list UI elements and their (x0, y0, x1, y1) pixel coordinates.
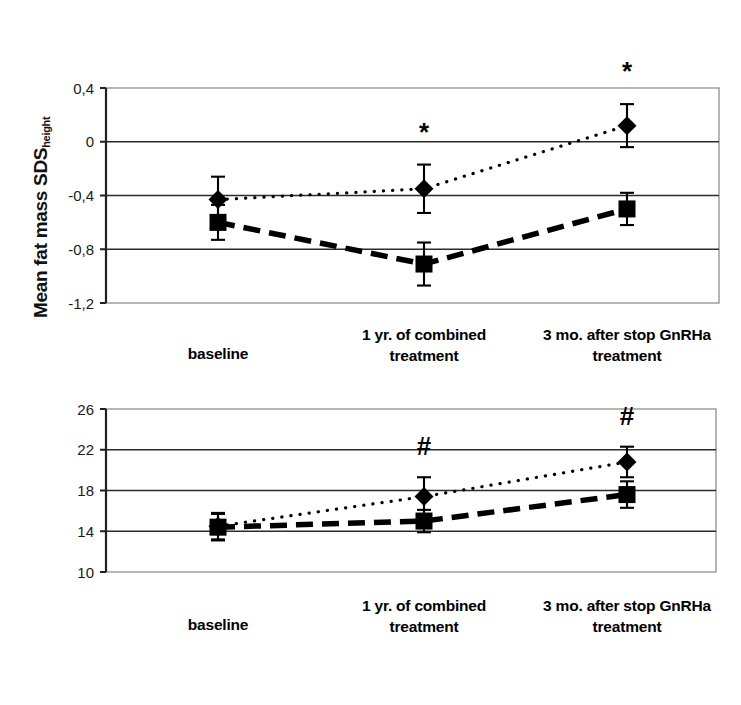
y-tick-label-1: 22 (77, 441, 94, 458)
x-axis-label-line: 1 yr. of combined (362, 326, 486, 343)
datapoint-dashed-square-2 (619, 481, 636, 507)
x-axis-label-line: treatment (593, 618, 662, 635)
y-tick-label-2: -0,4 (68, 187, 94, 204)
x-axis-label-line: baseline (188, 616, 249, 633)
x-axis-label-0: baseline (188, 345, 249, 362)
y-tick-label-0: 0,4 (73, 80, 94, 97)
y-tick-label-4: 10 (77, 564, 94, 581)
x-axis-label-line: 3 mo. after stop GnRHa (543, 597, 711, 614)
x-axis-label-1: 1 yr. of combinedtreatment (362, 326, 486, 364)
marker-diamond (618, 116, 637, 135)
x-axis-label-line: baseline (188, 345, 249, 362)
datapoint-dotted-diamond-2 (618, 447, 637, 478)
datapoint-dashed-square-0 (210, 205, 227, 240)
plot-area-fat-mass-sds: 0,40-0,4-0,8-1,2**baseline1 yr. of combi… (0, 0, 741, 390)
y-tick-label-3: -0,8 (68, 241, 94, 258)
datapoint-dashed-square-2 (619, 193, 636, 225)
significance-marker-1: * (622, 56, 633, 86)
y-tick-label-3: 14 (77, 523, 94, 540)
x-axis-label-1: 1 yr. of combinedtreatment (362, 597, 486, 635)
y-tick-label-2: 18 (77, 482, 94, 499)
x-axis-label-line: 3 mo. after stop GnRHa (543, 326, 711, 343)
marker-square (210, 214, 227, 231)
x-axis-label-2: 3 mo. after stop GnRHatreatment (543, 597, 711, 635)
marker-square (210, 519, 227, 536)
marker-square (619, 200, 636, 217)
datapoint-dashed-square-0 (210, 514, 227, 540)
marker-square (619, 486, 636, 503)
chart-panel-trunk-fat: Mean % trunk fat 2622181410##baseline1 y… (0, 385, 741, 705)
marker-diamond (618, 452, 637, 471)
marker-square (416, 513, 433, 530)
significance-marker-0: * (419, 117, 430, 147)
x-axis-label-line: treatment (390, 347, 459, 364)
datapoint-dashed-square-1 (416, 510, 433, 532)
x-axis-label-0: baseline (188, 616, 249, 633)
y-tick-label-1: 0 (86, 133, 94, 150)
significance-marker-1: # (620, 401, 635, 431)
x-axis-label-line: treatment (390, 618, 459, 635)
x-axis-label-line: 1 yr. of combined (362, 597, 486, 614)
y-tick-label-0: 26 (77, 401, 94, 418)
significance-marker-0: # (417, 431, 432, 461)
chart-panel-fat-mass-sds: Mean fat mass SDSheight 0,40-0,4-0,8-1,2… (0, 0, 741, 390)
plot-area-trunk-fat: 2622181410##baseline1 yr. of combinedtre… (0, 385, 741, 705)
marker-square (416, 256, 433, 273)
x-axis-label-2: 3 mo. after stop GnRHatreatment (543, 326, 711, 364)
x-axis-label-line: treatment (593, 347, 662, 364)
datapoint-dotted-diamond-2 (618, 104, 637, 147)
y-tick-label-4: -1,2 (68, 295, 94, 312)
datapoint-dotted-diamond-1 (415, 165, 434, 213)
figure-container: Mean fat mass SDSheight 0,40-0,4-0,8-1,2… (0, 0, 741, 705)
